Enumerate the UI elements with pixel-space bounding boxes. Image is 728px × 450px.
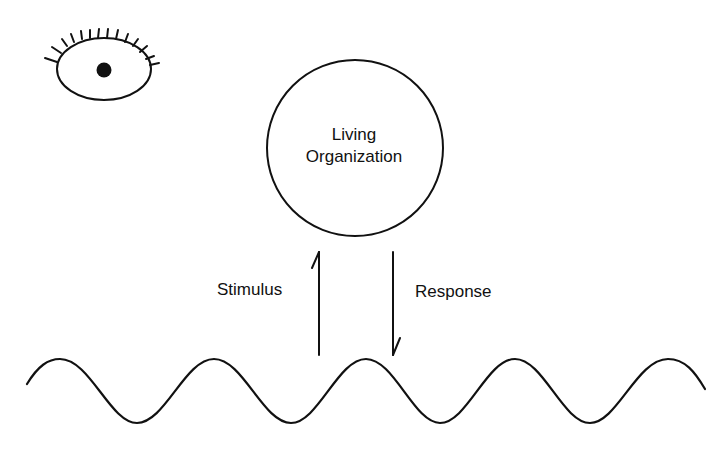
- stimulus-label: Stimulus: [217, 280, 282, 300]
- organism-label-line1: Living: [268, 124, 440, 146]
- response-arrow: [393, 252, 400, 355]
- response-label: Response: [415, 282, 492, 302]
- eye-icon: [45, 29, 159, 100]
- environment-wave: [27, 359, 705, 423]
- organism-label: Living Organization: [268, 124, 440, 168]
- organism-label-line2: Organization: [268, 146, 440, 168]
- diagram-canvas: [0, 0, 728, 450]
- stimulus-arrow: [312, 252, 319, 355]
